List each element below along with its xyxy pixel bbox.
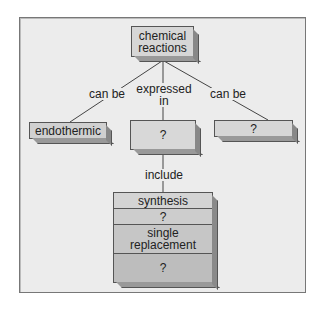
stack-row-synthesis: synthesis [114,193,212,209]
link-label-include: include [138,169,190,181]
stack-row-unknown-2: ? [114,254,212,282]
link-label-right: can be [207,88,249,100]
link-label-left: can be [86,88,128,100]
stack-row-unknown-1: ? [114,209,212,225]
root-node: chemical reactions [131,26,194,57]
node-middle-unknown: ? [130,120,196,150]
stack-row-single-replacement: single replacement [114,225,212,254]
link-label-middle: expressed in [134,83,194,107]
node-right-unknown: ? [214,120,293,137]
node-right-label: ? [250,123,257,135]
node-endothermic-label: endothermic [35,125,101,137]
root-node-label: chemical reactions [132,30,193,54]
reaction-types-stack: synthesis ? single replacement ? [113,192,213,283]
node-middle-label: ? [160,129,167,141]
node-endothermic: endothermic [29,122,107,139]
